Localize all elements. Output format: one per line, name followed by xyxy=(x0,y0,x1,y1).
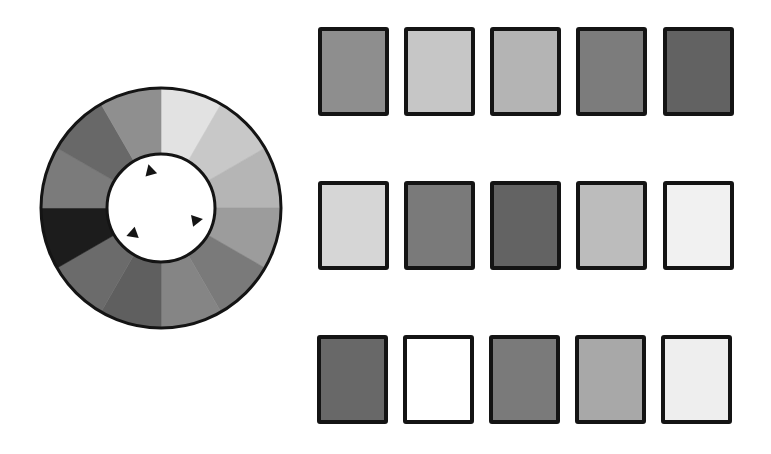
color-wheel xyxy=(0,0,320,454)
swatch-r1-c5 xyxy=(663,27,734,116)
swatch-r1-c4 xyxy=(576,27,647,116)
swatch-r1-c2 xyxy=(404,27,475,116)
swatch-r2-c5 xyxy=(663,181,734,270)
swatch-r2-c4 xyxy=(576,181,647,270)
swatch-r1-c1 xyxy=(318,27,389,116)
wheel-center-hub xyxy=(107,154,215,262)
swatch-r3-c2 xyxy=(403,335,474,424)
swatch-r3-c1 xyxy=(317,335,388,424)
swatch-r1-c3 xyxy=(490,27,561,116)
swatch-r3-c3 xyxy=(489,335,560,424)
swatch-r3-c4 xyxy=(575,335,646,424)
swatch-r2-c1 xyxy=(318,181,389,270)
swatch-r3-c5 xyxy=(661,335,732,424)
swatch-r2-c2 xyxy=(404,181,475,270)
swatch-r2-c3 xyxy=(490,181,561,270)
